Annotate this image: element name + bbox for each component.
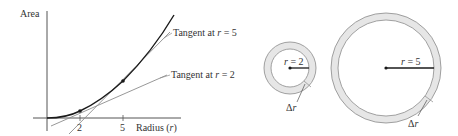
small-ring: r = 2 Δr — [264, 42, 316, 113]
x-axis-label: Radius (r) — [136, 122, 177, 134]
graph: Area 2 5 Radius (r) Tangent at r = 5 Tan… — [20, 8, 237, 134]
small-ring-radius-label: r = 2 — [284, 56, 304, 67]
area-radius-diagram: Area 2 5 Radius (r) Tangent at r = 5 Tan… — [0, 0, 458, 136]
tangent-line-r5 — [69, 32, 170, 134]
point-r2 — [78, 109, 82, 113]
large-ring-radius-label: r = 5 — [401, 56, 421, 67]
small-ring-delta-label: Δr — [286, 102, 296, 113]
tick-label-5: 5 — [120, 122, 125, 133]
y-axis-label: Area — [20, 8, 40, 19]
tangent-r2-label: Tangent at r = 2 — [171, 69, 235, 80]
large-ring: r = 5 Δr — [331, 13, 441, 129]
tick-label-2: 2 — [77, 122, 82, 133]
point-r5 — [121, 79, 125, 83]
large-ring-delta-label: Δr — [408, 118, 418, 129]
area-curve — [47, 15, 174, 118]
tangent-r5-label: Tangent at r = 5 — [173, 27, 237, 38]
